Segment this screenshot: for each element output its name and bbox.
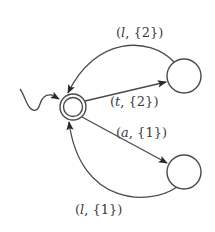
transition-edge-a-1: [82, 117, 167, 163]
label-a-1: (a, {1}): [116, 125, 167, 140]
transition-arc-l-2: [68, 45, 174, 93]
label-t-2: (t, {2}): [110, 94, 158, 109]
state-q2: [167, 155, 201, 189]
label-l-1: (l, {1}): [75, 202, 122, 217]
state-q0-initial-accepting: [60, 94, 86, 120]
initial-arrow: [20, 89, 59, 110]
label-l-2: (l, {2}): [116, 25, 163, 40]
state-q1: [167, 59, 201, 93]
automaton-diagram: (l, {2}) (t, {2}) (a, {1}) (l, {1}): [0, 0, 215, 232]
